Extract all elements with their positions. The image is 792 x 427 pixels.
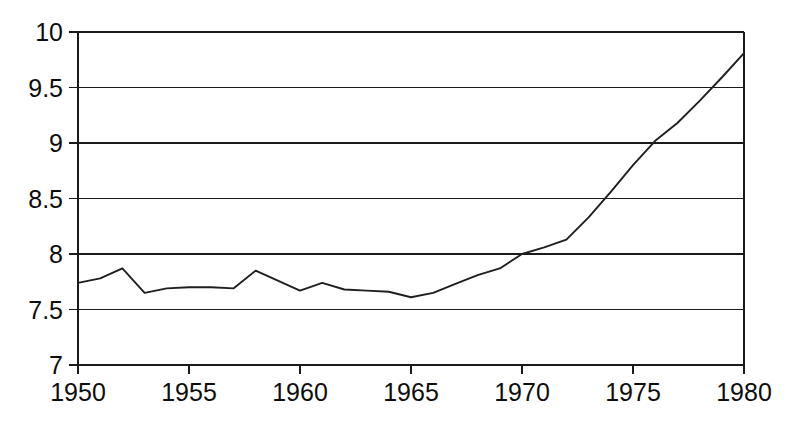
x-axis-tick-label: 1950 [50,378,106,406]
chart-container: 77.588.599.510 1950195519601965197019751… [0,0,792,427]
x-axis-tick-label: 1965 [383,378,439,406]
x-axis-tick-label: 1975 [605,378,661,406]
x-axis-tick-label: 1980 [716,378,772,406]
line-chart: 77.588.599.510 1950195519601965197019751… [0,0,792,427]
y-axis-tick-label: 8 [49,240,63,268]
x-axis-tick-label: 1955 [161,378,217,406]
y-axis-tick-label: 8.5 [28,185,63,213]
x-axis-tick-label: 1960 [272,378,328,406]
y-axis-tick-label: 9.5 [28,74,63,102]
chart-background [0,0,792,427]
y-axis-tick-label: 7 [49,351,63,379]
y-axis-tick-label: 10 [35,18,63,46]
y-axis-tick-label: 7.5 [28,296,63,324]
y-axis-tick-label: 9 [49,129,63,157]
x-axis-tick-label: 1970 [494,378,550,406]
